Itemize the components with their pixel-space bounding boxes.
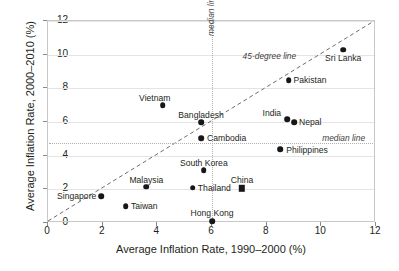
data-point-label: Malaysia [129, 176, 163, 185]
data-point-marker [278, 146, 284, 152]
x-tick-label: 10 [305, 226, 335, 236]
annotation-median-line-horizontal: median line [322, 134, 365, 143]
data-point-marker [201, 167, 207, 173]
data-point-label: South Korea [180, 159, 228, 168]
data-point-label: Cambodia [207, 134, 246, 143]
x-tick-label: 4 [141, 226, 171, 236]
data-point-marker [198, 135, 204, 141]
data-point-marker [123, 203, 129, 209]
data-point-marker [160, 102, 166, 108]
data-point-marker [198, 119, 204, 125]
data-point-label: China [231, 176, 253, 185]
data-point-label: Taiwan [131, 202, 158, 211]
data-point-marker [291, 119, 297, 125]
plot-area: VietnamBangladeshCambodiaSri LankaPakist… [47, 20, 375, 222]
data-point-label: Bangladesh [178, 111, 223, 120]
x-tick-label: 2 [87, 226, 117, 236]
data-point-marker [239, 185, 245, 191]
data-point-label: Nepal [299, 118, 321, 127]
data-point-marker [190, 185, 196, 191]
data-point-marker [340, 47, 346, 53]
y-axis-title: Average Inflation Rate, 2000–2010 (%) [24, 1, 36, 231]
x-axis-title: Average Inflation Rate, 1990–2000 (%) [47, 243, 375, 255]
x-tick-label: 8 [251, 226, 281, 236]
data-point-label: Vietnam [139, 94, 170, 103]
data-point-marker [99, 193, 105, 199]
median-line-horizontal [49, 143, 373, 144]
data-point-marker [286, 77, 292, 83]
data-point-marker [209, 219, 215, 225]
data-point-label: Philippines [286, 146, 328, 155]
x-tick-label: 6 [196, 226, 226, 236]
annotation-45-degree-line: 45-degree line [243, 52, 297, 61]
annotation-median-line-vertical: median line [207, 0, 216, 36]
data-point-label: Singapore [57, 192, 96, 201]
data-point-label: Pakistan [294, 76, 327, 85]
data-point-marker [144, 184, 150, 190]
data-point-label: India [263, 109, 282, 118]
x-tick-label: 0 [32, 226, 62, 236]
data-point-label: Sri Lanka [325, 54, 361, 63]
data-point-label: Hong Kong [190, 209, 233, 218]
data-point-marker [284, 117, 290, 123]
x-tick-label: 12 [360, 226, 390, 236]
scatter-chart-figure: Average Inflation Rate, 2000–2010 (%) Av… [0, 0, 399, 271]
data-point-label: Thailand [198, 184, 231, 193]
